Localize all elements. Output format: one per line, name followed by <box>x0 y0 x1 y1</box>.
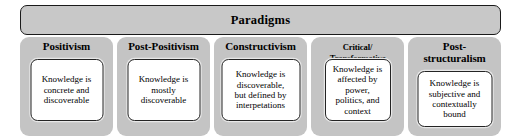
description-line: Knowledge is <box>42 74 92 84</box>
description-line: context <box>333 106 383 116</box>
paradigms-header-box: Paradigms <box>20 5 501 35</box>
paradigm-description-post-positivism: Knowledge is mostly discoverable <box>139 74 189 105</box>
paradigm-description-box-constructivism: Knowledge is discoverable, but defined b… <box>221 59 300 121</box>
description-line: discoverable <box>42 95 92 105</box>
description-line: bound <box>429 109 481 119</box>
description-line: affected by <box>333 74 383 84</box>
page-title: Paradigms <box>231 13 290 28</box>
description-line: mostly <box>139 85 189 95</box>
description-line: subjective and <box>429 89 481 99</box>
paradigm-title-line: Critical/ <box>311 42 404 53</box>
paradigm-description-positivism: Knowledge is concrete and discoverable <box>42 74 92 105</box>
paradigm-description-box-critical-transformative: Knowledge is affected by power, politics… <box>325 59 391 121</box>
paradigm-description-post-structuralism: Knowledge is subjective and contextually… <box>429 78 481 120</box>
description-line: but defined by <box>235 90 287 100</box>
description-line: Knowledge is <box>139 74 189 84</box>
paradigm-description-box-positivism: Knowledge is concrete and discoverable <box>30 59 103 121</box>
paradigm-title-positivism: Positivism <box>20 41 113 53</box>
paradigm-description-critical-transformative: Knowledge is affected by power, politics… <box>333 64 383 116</box>
description-line: Knowledge is <box>429 78 481 88</box>
paradigm-title-constructivism: Constructivism <box>214 41 307 53</box>
description-line: politics, and <box>333 95 383 105</box>
description-line: power, <box>333 85 383 95</box>
description-line: discoverable, <box>235 80 287 90</box>
description-line: Knowledge is <box>235 69 287 79</box>
paradigm-column-constructivism: Constructivism Knowledge is discoverable… <box>214 37 307 136</box>
description-line: interpetations <box>235 100 287 110</box>
paradigm-description-box-post-positivism: Knowledge is mostly discoverable <box>127 59 200 121</box>
paradigms-diagram: Paradigms Positivism Knowledge is concre… <box>0 0 519 140</box>
paradigm-column-critical-transformative: Critical/ Transformative Knowledge is af… <box>311 37 404 136</box>
description-line: Knowledge is <box>333 64 383 74</box>
paradigm-description-constructivism: Knowledge is discoverable, but defined b… <box>235 69 287 111</box>
paradigm-column-post-positivism: Post-Positivism Knowledge is mostly disc… <box>117 37 210 136</box>
description-line: discoverable <box>139 95 189 105</box>
paradigm-title-post-positivism: Post-Positivism <box>117 41 210 53</box>
description-line: concrete and <box>42 85 92 95</box>
paradigm-column-positivism: Positivism Knowledge is concrete and dis… <box>20 37 113 136</box>
paradigm-title-line: structuralism <box>408 53 501 65</box>
paradigm-description-box-post-structuralism: Knowledge is subjective and contextually… <box>417 71 492 127</box>
paradigm-column-post-structuralism: Post- structuralism Knowledge is subject… <box>408 37 501 136</box>
paradigm-title-line: Post-Positivism <box>128 40 199 52</box>
paradigm-title-post-structuralism: Post- structuralism <box>408 41 501 65</box>
paradigm-columns: Positivism Knowledge is concrete and dis… <box>0 37 519 136</box>
description-line: contextually <box>429 99 481 109</box>
paradigm-title-line: Positivism <box>43 40 90 52</box>
paradigm-title-line: Constructivism <box>225 40 296 52</box>
